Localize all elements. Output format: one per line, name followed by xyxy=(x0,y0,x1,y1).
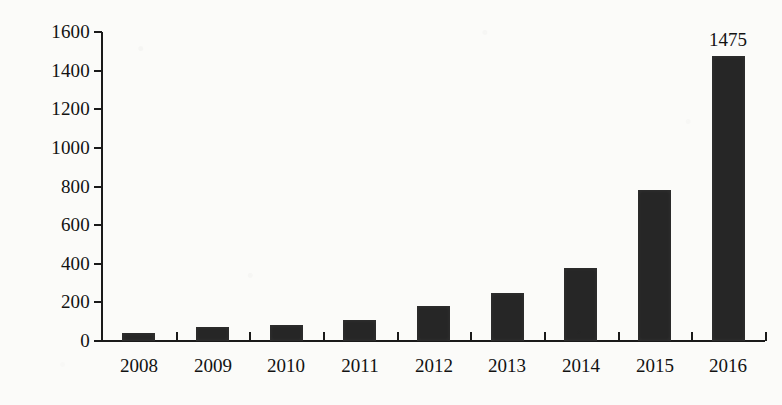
chart-page: 02004006008001000120014001600 1475 20082… xyxy=(0,0,782,405)
y-axis-tick-label: 1600 xyxy=(20,22,90,41)
x-axis-tick xyxy=(176,332,178,341)
bar xyxy=(270,325,303,341)
bar xyxy=(712,56,745,341)
bar xyxy=(638,190,671,341)
bar xyxy=(491,293,524,341)
x-axis-tick xyxy=(249,332,251,341)
y-axis-tick-label: 1000 xyxy=(20,138,90,157)
bar xyxy=(196,327,229,341)
y-axis-tick xyxy=(94,301,102,303)
x-axis-tick xyxy=(323,332,325,341)
y-axis-tick xyxy=(94,186,102,188)
y-axis-tick-label: 1200 xyxy=(20,99,90,118)
y-axis-tick-label: 1400 xyxy=(20,61,90,80)
y-axis-tick-label: 400 xyxy=(20,254,90,273)
y-axis-tick xyxy=(94,70,102,72)
x-axis-tick xyxy=(470,332,472,341)
x-axis-tick xyxy=(618,332,620,341)
x-axis-tick-label: 2016 xyxy=(678,356,778,376)
y-axis-tick-label: 800 xyxy=(20,177,90,196)
bar xyxy=(122,333,155,341)
x-axis-tick xyxy=(691,332,693,341)
x-axis-tick xyxy=(544,332,546,341)
y-axis-tick xyxy=(94,147,102,149)
bar xyxy=(417,306,450,341)
y-axis-tick-label: 0 xyxy=(20,331,90,350)
y-axis-tick-label: 200 xyxy=(20,292,90,311)
bar-chart: 02004006008001000120014001600 1475 20082… xyxy=(0,0,782,405)
x-axis-tick xyxy=(397,332,399,341)
bar xyxy=(564,268,597,341)
y-axis-tick xyxy=(94,263,102,265)
bar-value-label: 1475 xyxy=(678,30,778,49)
x-axis-tick xyxy=(765,332,767,341)
y-axis-tick xyxy=(94,108,102,110)
y-axis-tick xyxy=(94,31,102,33)
y-axis-tick-label: 600 xyxy=(20,215,90,234)
y-axis-tick xyxy=(94,340,102,342)
bar xyxy=(343,320,376,341)
y-axis-tick xyxy=(94,224,102,226)
